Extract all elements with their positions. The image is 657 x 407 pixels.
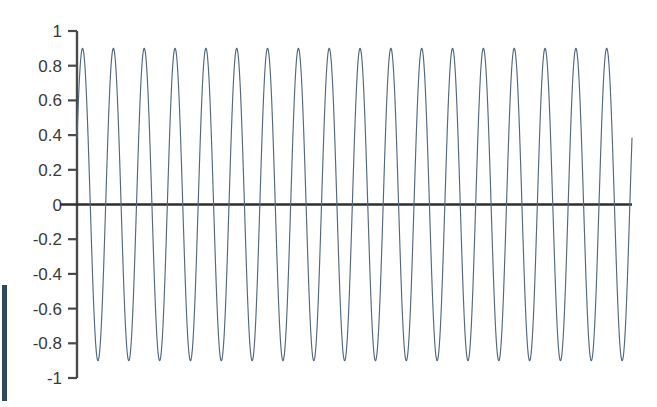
y-axis-tick-label: -1 (47, 369, 62, 388)
y-axis-tick-label: -0.8 (33, 334, 62, 353)
y-axis-tick-label: -0.4 (33, 265, 62, 284)
y-axis-tick-label: 1 (53, 22, 62, 41)
chart-canvas: 10.80.60.40.20-0.2-0.4-0.6-0.8-1 (0, 0, 657, 407)
sine-wave-chart: 10.80.60.40.20-0.2-0.4-0.6-0.8-1 (0, 0, 657, 407)
y-axis-tick-labels: 10.80.60.40.20-0.2-0.4-0.6-0.8-1 (33, 22, 62, 388)
y-axis-tick-label: -0.2 (33, 230, 62, 249)
y-axis-tick-label: 0.6 (38, 91, 62, 110)
y-axis-tick-label: 0.8 (38, 57, 62, 76)
y-axis-tick-label: 0.4 (38, 126, 62, 145)
y-axis-tick-label: 0.2 (38, 161, 62, 180)
y-axis-tick-label: -0.6 (33, 300, 62, 319)
chart-page: 10.80.60.40.20-0.2-0.4-0.6-0.8-1 (0, 0, 657, 407)
